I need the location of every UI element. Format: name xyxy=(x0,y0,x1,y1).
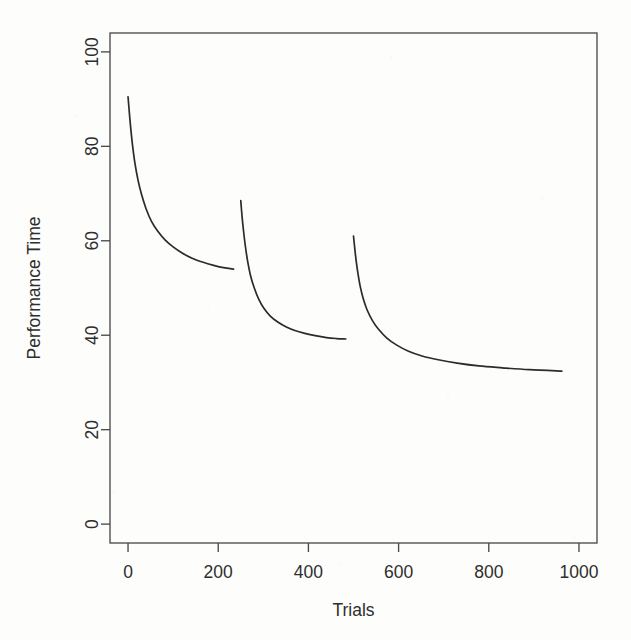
data-curve-2 xyxy=(241,201,346,339)
x-axis-title: Trials xyxy=(332,600,374,620)
x-tick-label: 800 xyxy=(474,562,503,582)
x-tick-label: 200 xyxy=(204,562,233,582)
data-curve-3 xyxy=(354,236,562,371)
figure-canvas: 02040608010002004006008001000TrialsPerfo… xyxy=(0,0,631,640)
y-tick-label: 80 xyxy=(82,136,102,156)
y-tick-label: 20 xyxy=(82,420,102,440)
x-tick-label: 0 xyxy=(123,562,133,582)
data-curve-1 xyxy=(128,97,234,269)
y-tick-label: 40 xyxy=(82,325,102,345)
y-tick-label: 60 xyxy=(82,231,102,251)
x-tick-label: 1000 xyxy=(559,562,598,582)
y-axis-title: Performance Time xyxy=(24,217,44,360)
y-tick-label: 0 xyxy=(82,519,102,529)
y-tick-label: 100 xyxy=(82,37,102,66)
plot-frame xyxy=(110,33,597,543)
x-tick-label: 600 xyxy=(384,562,413,582)
chart-plot: 02040608010002004006008001000TrialsPerfo… xyxy=(0,0,631,640)
x-tick-label: 400 xyxy=(294,562,323,582)
